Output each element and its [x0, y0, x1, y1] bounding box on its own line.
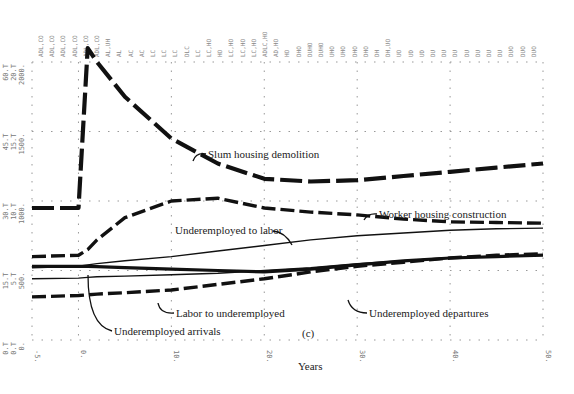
plot-code: DU [429, 49, 436, 57]
y-tick-label: 2000. [18, 64, 26, 85]
y-tick-label: 15.T [2, 272, 10, 290]
y-tick-label: 0.T [10, 341, 18, 354]
y-tick-label: 1500. [18, 134, 26, 155]
plot-code: LC,HO [205, 39, 212, 57]
y-tick-label: 60.T [2, 63, 10, 81]
y-tick-label: 10.T [10, 202, 18, 220]
plot-code: HO [216, 49, 223, 57]
series-slum-housing-demolition [32, 48, 543, 208]
plot-code: DUO [530, 46, 537, 57]
x-tick-label: 10. [172, 350, 180, 363]
y-tick-label: 30.T [2, 202, 10, 220]
plot-code: LC,HO [250, 39, 257, 57]
y-tick-label: 20.T [10, 63, 18, 81]
y-tick-label: 0. [18, 342, 26, 350]
y-tick-label: 0.T [2, 341, 10, 354]
plot-code: AD,HO [272, 39, 279, 57]
plot-code: DHO [351, 46, 358, 57]
plot-code: DUHO [306, 42, 313, 57]
chart-figure: 2000.20.T60.T1500.15.T45.T1000.10.T30.T5… [0, 0, 574, 394]
plot-code: UHO [339, 46, 346, 57]
x-tick-label: -5. [33, 350, 41, 363]
data-series [32, 48, 543, 297]
plot-code: DUO [519, 46, 526, 57]
plot-code: ADLC,HO [261, 31, 268, 57]
plot-code: UD [418, 49, 425, 57]
gridlines [32, 62, 543, 340]
plot-symbol-codes: ADL,COADL,COADL,COADL,COADL,COADL,COAL,U… [37, 31, 537, 57]
plot-code: AL [115, 49, 122, 57]
plot-code: ADL,CO [37, 35, 44, 57]
x-tick-label: 0. [79, 350, 87, 358]
x-axis-label: Years [298, 360, 323, 372]
plot-code: ADL,CO [59, 35, 66, 57]
panel-label: (c) [302, 327, 315, 340]
plot-code: AC [127, 49, 134, 57]
plot-code: DU [496, 49, 503, 57]
annotation-slum-housing-demolition: Slum housing demolition [208, 148, 320, 160]
plot-code: UHO [328, 46, 335, 57]
x-tick-label: 20. [265, 350, 273, 363]
series-labor-to-underemployed [32, 254, 543, 297]
series-underemployed-to-labor [32, 228, 543, 268]
plot-code: HO [283, 49, 290, 57]
plot-code: DH,UO [384, 39, 391, 57]
plot-code: LC [171, 49, 178, 57]
plot-code: UD [407, 49, 414, 57]
plot-code: LC [160, 49, 167, 57]
annotation-underemployed-to-labor: Underemployed to labor [175, 224, 283, 236]
y-tick-label: 500. [18, 273, 26, 290]
plot-code: DUO [507, 46, 514, 57]
plot-code: ADL,CO [48, 35, 55, 57]
annotation-underemployed-departures: Underemployed departures [369, 307, 488, 319]
plot-code: DUHO [317, 42, 324, 57]
y-axis-ticks: 2000.20.T60.T1500.15.T45.T1000.10.T30.T5… [2, 63, 26, 354]
plot-code: ADL,CO [93, 35, 100, 57]
series-worker-housing-construction [32, 198, 543, 256]
plot-code: LC [149, 49, 156, 57]
plot-code: DU [485, 49, 492, 57]
plot-code: LC [194, 49, 201, 57]
x-tick-label: 50. [544, 350, 552, 363]
y-tick-label: 5.T [10, 272, 18, 285]
plot-code: LC,HO [227, 39, 234, 57]
y-tick-label: 1000. [18, 203, 26, 224]
plot-code: DU [474, 49, 481, 57]
x-axis-ticks: -5.0.10.20.30.40.50. [33, 350, 552, 363]
plot-code: DU [451, 49, 458, 57]
plot-code: DHO [362, 46, 369, 57]
plot-code: DH [373, 49, 380, 57]
annotation-worker-housing-construction: Worker housing construction [379, 208, 507, 220]
y-tick-label: 15.T [10, 133, 18, 151]
plot-code: DHO [295, 46, 302, 57]
plot-code: ADL,CO [71, 35, 78, 57]
plot-code: DU [463, 49, 470, 57]
plot-code: AC [138, 49, 145, 57]
y-tick-label: 45.T [2, 133, 10, 151]
x-tick-label: 30. [358, 350, 366, 363]
plot-code: DLC [183, 46, 190, 57]
plot-code: DU [440, 49, 447, 57]
plot-code: UO [395, 49, 402, 57]
x-tick-label: 40. [451, 350, 459, 363]
plot-code: AL,UH [104, 39, 111, 57]
annotation-underemployed-arrivals: Underemployed arrivals [114, 325, 221, 337]
plot-code: LC,HO [239, 39, 246, 57]
annotation-labor-to-underemployed: Labor to underemployed [176, 307, 285, 319]
